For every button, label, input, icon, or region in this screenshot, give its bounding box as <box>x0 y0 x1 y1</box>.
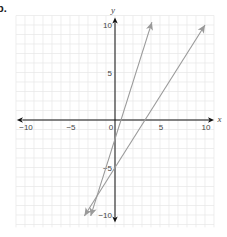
coordinate-plane: −10−50510−10−5510xy <box>0 0 227 237</box>
y-axis-label: y <box>110 5 115 15</box>
line-1 <box>91 22 152 216</box>
axes <box>17 17 214 222</box>
y-tick-label: −10 <box>98 211 112 220</box>
x-tick-label: 10 <box>202 123 211 132</box>
x-axis-label: x <box>217 114 222 124</box>
y-tick-label: 5 <box>108 69 113 78</box>
x-tick-label: 0 <box>109 123 114 132</box>
x-tick-label: −5 <box>66 123 76 132</box>
line-2-end-arrow-icon <box>198 25 205 34</box>
y-tick-label: 10 <box>103 21 112 30</box>
tick-labels: −10−50510−10−5510xy <box>19 5 221 220</box>
x-tick-label: −10 <box>19 123 33 132</box>
x-tick-label: 5 <box>159 123 164 132</box>
